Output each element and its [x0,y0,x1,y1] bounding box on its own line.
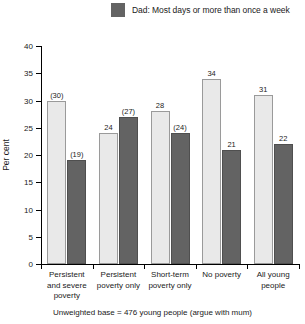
bar-dad-1: (27) [119,117,138,264]
category-label-0: Persistent and severe poverty [41,270,93,302]
chart-legend: Dad: Most days or more than once a week [111,3,290,17]
bar-value-label: (19) [70,150,83,159]
y-tick-label-5: 5 [5,232,33,241]
bar-mum-3: 34 [202,79,221,264]
bar-value-label: 31 [259,85,267,94]
y-tick-5 [36,237,41,238]
category-label-4: All young people [247,270,299,291]
legend-label-dad: Dad: Most days or more than once a week [132,5,290,15]
bar-mum-4: 31 [254,95,273,264]
x-tick-3 [196,264,197,269]
y-tick-15 [36,182,41,183]
y-tick-30 [36,101,41,102]
y-tick-label-30: 30 [5,96,33,105]
y-tick-label-20: 20 [5,151,33,160]
bar-value-label: 24 [104,123,112,132]
plot-area: Per cent 0510152025303540 (30)(19)24(27)… [41,46,299,264]
bar-value-label: (27) [122,107,135,116]
y-tick-label-40: 40 [5,42,33,51]
y-tick-20 [36,155,41,156]
category-label-3: No poverty [196,270,248,281]
bar-dad-3: 21 [222,150,241,264]
legend-swatch-dad [111,3,125,17]
bar-value-label: (30) [50,91,63,100]
bar-dad-2: (24) [171,133,190,264]
y-tick-25 [36,128,41,129]
bar-value-label: 28 [156,101,164,110]
x-tick-4 [247,264,248,269]
y-tick-label-10: 10 [5,205,33,214]
y-tick-label-0: 0 [5,260,33,269]
bar-value-label: (24) [173,123,186,132]
y-tick-35 [36,73,41,74]
bar-chart: Dad: Most days or more than once a week … [0,0,305,324]
chart-footnote: Unweighted base = 476 young people (argu… [0,308,305,317]
y-axis-line [41,46,42,264]
y-tick-label-35: 35 [5,69,33,78]
x-tick-0 [41,264,42,269]
bar-mum-0: (30) [47,101,66,265]
bar-dad-0: (19) [67,160,86,264]
y-tick-10 [36,210,41,211]
bar-mum-2: 28 [151,111,170,264]
category-label-1: Persistent poverty only [93,270,145,291]
bar-value-label: 34 [207,69,215,78]
bar-value-label: 21 [227,140,235,149]
x-tick-5 [299,264,300,269]
bar-value-label: 22 [279,134,287,143]
x-tick-1 [93,264,94,269]
x-tick-2 [144,264,145,269]
y-tick-40 [36,46,41,47]
y-tick-label-25: 25 [5,123,33,132]
bar-dad-4: 22 [274,144,293,264]
y-tick-label-15: 15 [5,178,33,187]
bar-mum-1: 24 [99,133,118,264]
x-axis-line [41,264,299,265]
category-label-2: Short-term poverty only [144,270,196,291]
